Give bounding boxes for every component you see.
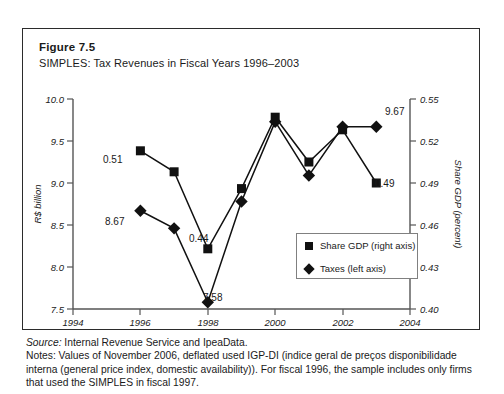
figure-card: Figure 7.5 SIMPLES: Tax Revenues in Fisc…: [22, 28, 480, 330]
chart-legend: Share GDP (right axis) Taxes (left axis): [296, 233, 418, 279]
left-tick-label: 7.5: [51, 304, 65, 315]
legend-label: Share GDP (right axis): [320, 240, 415, 251]
x-tick-label: 2000: [263, 317, 286, 328]
source-line: Source: Internal Revenue Service and Ipe…: [26, 336, 486, 349]
x-axis-tick-labels: 1994 1996 1998 2000 2002 2004: [62, 317, 420, 328]
left-tick-label: 8.5: [51, 220, 65, 231]
right-tick-label: 0.46: [420, 220, 439, 231]
data-label: 0.49: [375, 178, 395, 189]
diamond-marker-icon: [303, 263, 314, 274]
x-tick-label: 1998: [197, 317, 219, 328]
left-tick-label: 10.0: [46, 94, 65, 105]
data-label: 7.58: [203, 292, 223, 303]
right-axis-tick-labels: 0.55 0.52 0.49 0.46 0.43 0.40: [420, 94, 439, 315]
square-marker-icon: [305, 242, 313, 250]
data-label: 0.51: [103, 154, 123, 165]
left-axis-ticks: [67, 99, 73, 309]
x-tick-label: 2004: [398, 317, 420, 328]
data-label: 8.67: [105, 216, 125, 227]
figure-notes: Source: Internal Revenue Service and Ipe…: [26, 336, 486, 390]
data-point-diamond: [370, 121, 382, 133]
data-point-square: [304, 158, 313, 167]
legend-label: Taxes (left axis): [320, 263, 386, 274]
data-label: 0.44: [189, 233, 209, 244]
data-point-diamond: [168, 222, 180, 234]
right-tick-label: 0.43: [420, 262, 439, 273]
data-point-diamond: [303, 169, 315, 181]
data-label: 9.67: [385, 106, 405, 117]
data-point-square: [136, 146, 145, 155]
right-tick-label: 0.52: [420, 136, 439, 147]
right-axis-title: Share GDP (percent): [453, 160, 464, 249]
legend-item-share-gdp: Share GDP (right axis): [297, 234, 417, 257]
right-tick-label: 0.55: [420, 94, 439, 105]
x-axis-ticks: [73, 309, 410, 315]
right-tick-label: 0.49: [420, 178, 439, 189]
chart-plot-area: 10.0 9.5 9.0 8.5 8.0 7.5 0.55 0.52 0.49 …: [23, 29, 481, 331]
left-axis-tick-labels: 10.0 9.5 9.0 8.5 8.0 7.5: [46, 94, 65, 315]
data-point-square: [237, 184, 246, 193]
left-tick-label: 9.0: [51, 178, 65, 189]
left-tick-label: 8.0: [51, 262, 65, 273]
data-point-diamond: [134, 205, 146, 217]
legend-item-taxes: Taxes (left axis): [297, 257, 417, 280]
x-tick-label: 1994: [62, 317, 83, 328]
notes-line: Notes: Values of November 2006, deflated…: [26, 349, 486, 389]
data-point-square: [203, 244, 212, 253]
left-tick-label: 9.5: [51, 136, 65, 147]
left-axis-title: R$ billion: [32, 184, 43, 223]
x-tick-label: 1996: [129, 317, 151, 328]
x-tick-label: 2002: [331, 317, 354, 328]
source-prefix: Source:: [26, 337, 62, 348]
right-tick-label: 0.40: [420, 304, 439, 315]
data-point-square: [170, 167, 179, 176]
source-text: Internal Revenue Service and IpeaData.: [62, 337, 248, 348]
